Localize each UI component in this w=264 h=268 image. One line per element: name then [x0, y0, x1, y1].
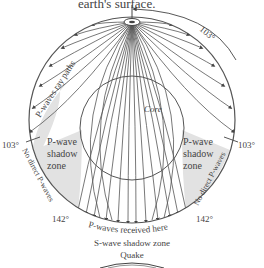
- angle-bottom-left-label: 142°: [52, 214, 70, 224]
- core-outline: [80, 76, 184, 180]
- angle-left-label: 103°: [2, 140, 20, 150]
- shadow-right-label-1: P-wave: [183, 136, 214, 147]
- angle-bottom-right-label: 142°: [196, 214, 214, 224]
- shadow-right-label-2: shadow: [183, 148, 214, 159]
- shadow-left-label-3: zone: [47, 160, 66, 171]
- seismic-wave-diagram: earth's surface.: [0, 0, 264, 268]
- angle-top-label: 103°: [198, 24, 218, 43]
- angle-right-label: 103°: [238, 140, 256, 150]
- quake-focus-icon: [124, 19, 140, 26]
- shadow-right-label-3: zone: [183, 160, 202, 171]
- quake-label: Quake: [120, 250, 144, 260]
- partial-globe-top: [100, 263, 164, 268]
- shadow-left-label-2: shadow: [47, 148, 78, 159]
- s-wave-shadow-label: S-wave shadow zone: [94, 238, 170, 248]
- shadow-left-label-1: P-wave: [47, 136, 78, 147]
- core-label: Core: [144, 104, 162, 114]
